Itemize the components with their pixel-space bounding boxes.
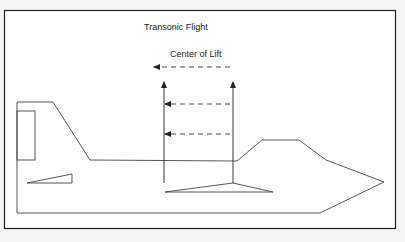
diagram-title: Transonic Flight — [144, 22, 208, 32]
transonic-flight-diagram: Transonic Flight Center of Lift — [0, 0, 405, 242]
center-of-lift-label: Center of Lift — [170, 49, 222, 59]
diagram-frame — [5, 11, 396, 229]
